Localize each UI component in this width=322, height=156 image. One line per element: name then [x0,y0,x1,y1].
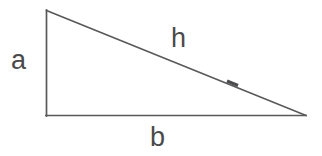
side-label-h: h [171,25,186,52]
side-label-b: b [150,124,165,151]
side-label-a: a [11,47,26,74]
right-triangle-diagram: a b h [0,0,322,156]
